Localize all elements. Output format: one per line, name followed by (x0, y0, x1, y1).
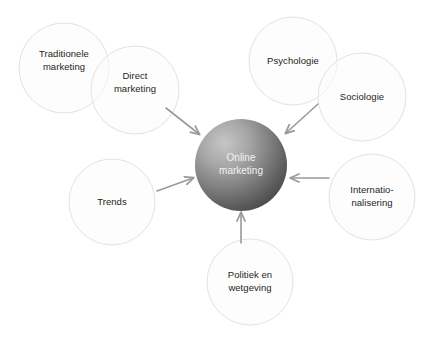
arrow-from-sociologie (286, 104, 318, 133)
core-sphere[interactable] (195, 119, 287, 211)
satellite-circle-trends[interactable] (69, 159, 155, 245)
satellite-circle-internationalisering[interactable] (329, 154, 415, 240)
arrow-from-direct-marketing (166, 108, 199, 134)
satellite-circle-sociologie[interactable] (318, 53, 406, 141)
diagram-svg (0, 0, 429, 341)
satellite-circle-politiek-en-wetgeving[interactable] (207, 239, 293, 325)
satellite-circle-direct-marketing[interactable] (91, 46, 179, 134)
diagram-canvas: Traditionele marketing Direct marketing … (0, 0, 429, 341)
arrow-from-trends (157, 178, 193, 191)
